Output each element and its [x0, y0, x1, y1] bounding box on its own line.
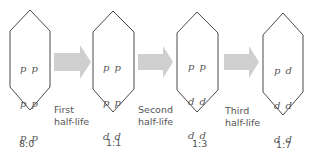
transition-label-2: Second half-life — [138, 104, 173, 127]
ratio-label-3: 1:3 — [192, 138, 207, 149]
atom-row: d d — [188, 96, 207, 108]
arrow-right-icon — [138, 46, 173, 78]
arrow-right-icon — [224, 46, 259, 78]
label-line: Second — [138, 104, 173, 116]
atom-row: p p — [103, 62, 122, 74]
atom-row: p d — [274, 65, 293, 77]
transition-label-1: First half-life — [54, 104, 89, 127]
label-line: half-life — [54, 116, 89, 128]
ratio-label-1: 8:0 — [19, 138, 34, 149]
label-line: First — [54, 104, 89, 116]
ratio-label-4: 1:7 — [276, 139, 291, 150]
atom-row: p p — [103, 97, 122, 109]
atom-row: p p — [188, 61, 207, 73]
atom-row: p p — [20, 63, 39, 75]
transition-label-3: Third half-life — [225, 105, 260, 128]
ratio-label-2: 1:1 — [106, 137, 121, 148]
label-line: half-life — [225, 117, 260, 129]
diagram-canvas — [0, 0, 311, 162]
atom-row: d d — [274, 100, 293, 112]
label-line: Third — [225, 105, 260, 117]
label-line: half-life — [138, 116, 173, 128]
arrow-right-icon — [54, 45, 91, 79]
atom-row: p p — [20, 98, 39, 110]
